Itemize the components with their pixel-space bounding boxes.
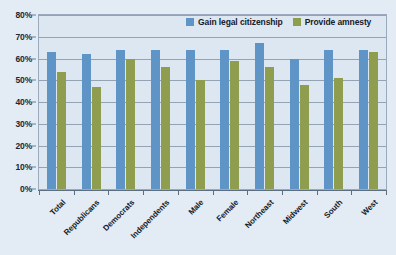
y-axis-tick-mark <box>32 102 36 103</box>
x-axis-tick-mark <box>386 190 387 195</box>
bar-group <box>186 15 205 189</box>
x-axis-tick-mark <box>108 190 109 195</box>
bar <box>151 50 160 189</box>
bar <box>265 67 274 189</box>
x-axis-tick-label: Northeast <box>243 198 275 230</box>
bar <box>196 80 205 189</box>
bar <box>57 72 66 189</box>
bar <box>220 50 229 189</box>
bars-layer <box>39 15 386 189</box>
y-axis-tick-label: 10% <box>16 162 32 172</box>
y-axis-tick-mark <box>32 80 36 81</box>
bar <box>230 61 239 189</box>
y-axis-tick-mark <box>32 145 36 146</box>
legend-item[interactable]: Gain legal citizenship <box>186 17 283 27</box>
bar <box>369 52 378 189</box>
bar-group <box>255 15 274 189</box>
x-axis-tick-label: Midwest <box>282 198 310 226</box>
bar <box>290 59 299 190</box>
x-axis-tick-label: Female <box>215 198 240 223</box>
bar-group <box>151 15 170 189</box>
y-axis-tick-mark <box>32 15 36 16</box>
y-axis-tick-label: 80% <box>16 10 32 20</box>
legend-label: Gain legal citizenship <box>198 17 283 27</box>
x-axis-tick-mark <box>317 190 318 195</box>
y-axis-tick-label: 30% <box>16 119 32 129</box>
bar <box>186 50 195 189</box>
y-axis-tick-label: 70% <box>16 32 32 42</box>
y-axis-tick-label: 0% <box>20 184 32 194</box>
x-axis-tick-label: South <box>322 198 344 220</box>
y-axis-tick-mark <box>32 123 36 124</box>
y-axis-tick-label: 20% <box>16 141 32 151</box>
bar-group <box>324 15 343 189</box>
bar <box>82 54 91 189</box>
x-axis-tick-label: Total <box>48 198 67 217</box>
bar <box>116 50 125 189</box>
x-axis-tick-mark <box>39 190 40 195</box>
y-axis-tick-label: 60% <box>16 54 32 64</box>
x-axis-tick-label: Republicans <box>62 198 101 237</box>
bar-group <box>359 15 378 189</box>
y-axis-tick-mark <box>32 167 36 168</box>
x-axis-tick-mark <box>143 190 144 195</box>
bar <box>47 52 56 189</box>
x-axis-tick-mark <box>247 190 248 195</box>
bar <box>300 85 309 189</box>
bar-group <box>116 15 135 189</box>
x-axis-tick-mark <box>351 190 352 195</box>
x-axis-tick-label: Democrats <box>101 198 136 233</box>
y-axis-tick-label: 40% <box>16 97 32 107</box>
bar-group <box>220 15 239 189</box>
bar <box>126 59 135 190</box>
y-axis-tick-mark <box>32 36 36 37</box>
bar <box>324 50 333 189</box>
bar <box>359 50 368 189</box>
bar <box>92 87 101 189</box>
x-axis-tick-mark <box>282 190 283 195</box>
bar <box>161 67 170 189</box>
bar <box>255 43 264 189</box>
x-axis-tick-label: Male <box>187 198 206 217</box>
legend-swatch-icon <box>186 18 194 26</box>
y-axis-tick-mark <box>32 58 36 59</box>
legend-label: Provide amnesty <box>305 17 372 27</box>
bar <box>334 78 343 189</box>
x-axis-tick-mark <box>178 190 179 195</box>
legend-item[interactable]: Provide amnesty <box>293 17 372 27</box>
x-axis-tick-mark <box>74 190 75 195</box>
bar-group <box>290 15 309 189</box>
y-axis: 0%10%20%30%40%50%60%70%80% <box>0 14 36 190</box>
y-axis-tick-label: 50% <box>16 75 32 85</box>
bar-group <box>47 15 66 189</box>
bar-chart: 0%10%20%30%40%50%60%70%80% TotalRepublic… <box>0 0 396 255</box>
x-axis-tick-mark <box>213 190 214 195</box>
bar-group <box>82 15 101 189</box>
y-axis-tick-mark <box>32 189 36 190</box>
chart-legend: Gain legal citizenshipProvide amnesty <box>186 17 371 27</box>
x-axis-tick-label: West <box>360 198 380 218</box>
legend-swatch-icon <box>293 18 301 26</box>
